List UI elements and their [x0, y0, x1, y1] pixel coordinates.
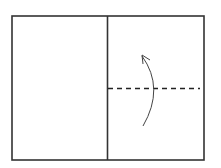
fold-diagram: [0, 0, 221, 168]
fold-arrow-curve: [142, 56, 154, 126]
